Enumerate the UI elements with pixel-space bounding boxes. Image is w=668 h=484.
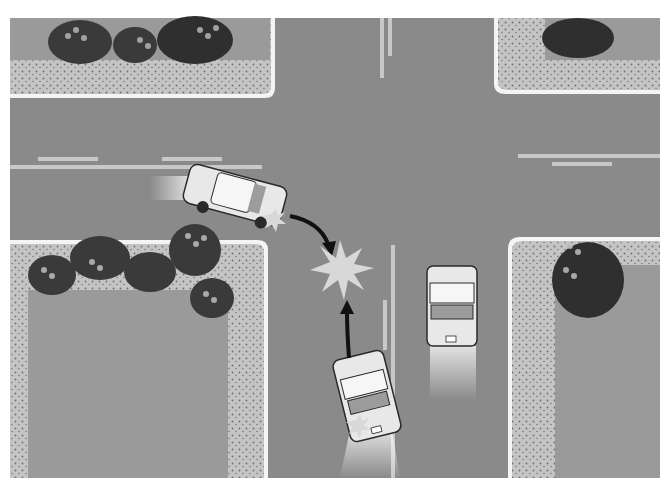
corner-block-top-left	[10, 16, 275, 98]
corner-block-bottom-left	[10, 224, 268, 478]
path-arrow-south	[347, 312, 349, 358]
corner-block-top-right	[494, 18, 660, 94]
corner-block-bottom-right	[508, 237, 660, 478]
car-parked	[427, 266, 477, 346]
shrub-icon	[552, 242, 624, 318]
shrub-icon	[542, 18, 614, 58]
headlight-beam	[430, 346, 476, 400]
intersection-illustration	[0, 0, 668, 484]
